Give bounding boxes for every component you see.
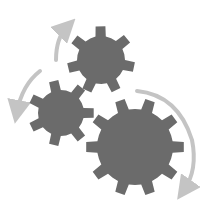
- large-gear-icon: [86, 99, 184, 195]
- top-arrow-icon: [56, 27, 67, 60]
- gears-illustration: [0, 0, 216, 215]
- left-gear-icon: [30, 80, 94, 146]
- gears: [30, 26, 184, 195]
- gears-svg: [0, 0, 216, 215]
- top-gear-icon: [67, 26, 135, 92]
